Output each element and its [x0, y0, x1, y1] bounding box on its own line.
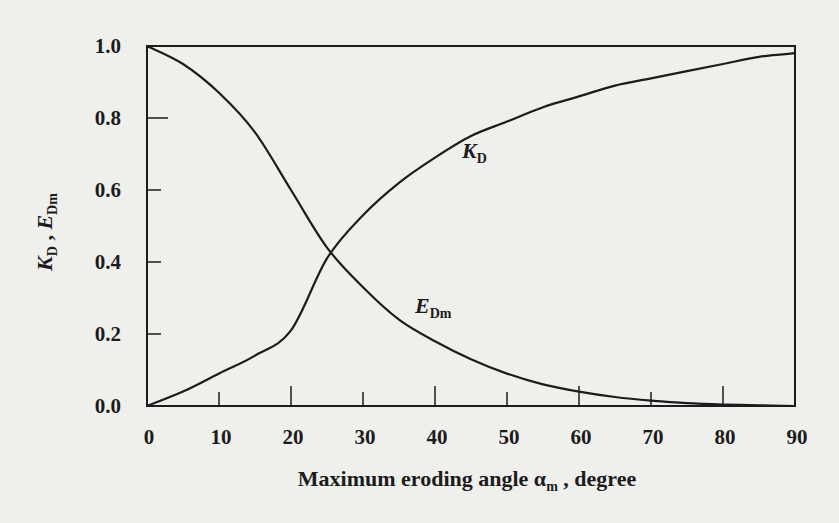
x-axis-title: Maximum eroding angle αm , degree — [298, 466, 637, 494]
line-chart: 0.00.20.40.60.81.0 0102030405060708090 K… — [0, 0, 839, 523]
x-tick-label: 30 — [355, 425, 376, 449]
x-axis-ticks: 0102030405060708090 — [144, 386, 808, 449]
y-axis-title: KD , EDm — [32, 193, 60, 272]
series-line-kd — [147, 53, 795, 406]
series-label-edm: EDm — [414, 293, 452, 321]
x-tick-label: 50 — [499, 425, 520, 449]
y-tick-label: 0.8 — [95, 106, 121, 130]
x-tick-label: 20 — [283, 425, 304, 449]
y-tick-label: 0.4 — [95, 250, 122, 274]
y-axis-ticks: 0.00.20.40.60.81.0 — [95, 34, 168, 418]
chart-figure: 0.00.20.40.60.81.0 0102030405060708090 K… — [0, 0, 839, 523]
series-line-edm — [147, 46, 795, 406]
x-tick-label: 70 — [643, 425, 664, 449]
x-tick-label: 60 — [571, 425, 592, 449]
x-tick-label: 80 — [715, 425, 736, 449]
y-tick-label: 0.2 — [95, 322, 121, 346]
x-tick-label: 10 — [211, 425, 232, 449]
series-label-kd: KD — [461, 138, 487, 166]
y-tick-label: 1.0 — [95, 34, 121, 58]
plot-frame — [147, 46, 795, 406]
data-curves — [147, 46, 795, 406]
x-tick-label: 40 — [427, 425, 448, 449]
y-tick-label: 0.0 — [95, 394, 121, 418]
y-tick-label: 0.6 — [95, 178, 121, 202]
x-tick-label: 0 — [144, 425, 155, 449]
x-tick-label: 90 — [787, 425, 808, 449]
